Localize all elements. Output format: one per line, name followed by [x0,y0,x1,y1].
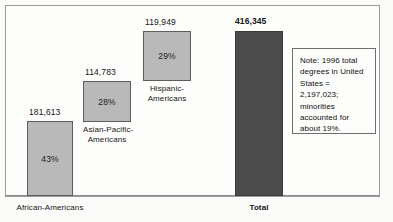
chart-figure: 119,949 29% Hispanic- Americans 114,783 … [0,0,393,222]
value-label-hispanic: 119,949 [145,17,176,27]
note-text: Note: 1996 total degrees in United State… [300,55,369,135]
note-box: Note: 1996 total degrees in United State… [292,48,376,134]
category-label-hispanic-line1: Hispanic- [143,84,191,94]
category-label-asian-pacific-line1: Asian-Pacific- [83,125,131,135]
bar-share-hispanic: 29% [144,51,190,61]
bar-hispanic-americans: 29% [143,31,191,81]
bar-total [235,31,283,196]
category-label-african-americans: African-Americans [9,203,91,213]
value-label-total: 416,345 [235,16,266,26]
plot-area: 119,949 29% Hispanic- Americans 114,783 … [0,0,393,222]
bar-african-americans: 43% [27,121,73,196]
bar-asian-pacific-americans: 28% [83,81,131,122]
value-label-asian-pacific: 114,783 [85,67,116,77]
category-label-asian-pacific-line2: Americans [83,135,131,145]
bar-share-african-american: 43% [28,154,72,164]
value-label-african-american: 181,613 [29,107,60,117]
bar-share-asian-pacific: 28% [84,97,130,107]
category-label-hispanic-line2: Americans [143,94,191,104]
category-label-total: Total [235,203,283,213]
